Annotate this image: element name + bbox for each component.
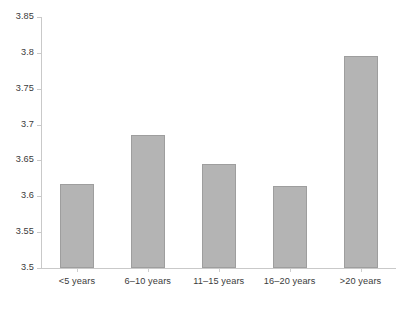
- x-tick-label: >20 years: [340, 277, 382, 286]
- x-tick-label: 6–10 years: [125, 277, 171, 286]
- y-tick-label: 3.75: [0, 84, 34, 93]
- bar-chart: 3.53.553.63.653.73.753.83.85 <5 years6–1…: [0, 0, 408, 319]
- x-tick-mark: [290, 269, 291, 272]
- x-tick-mark: [219, 269, 220, 272]
- y-tick-label: 3.6: [0, 192, 34, 201]
- y-tick-mark: [37, 17, 41, 18]
- x-tick-mark: [361, 269, 362, 272]
- bar: [202, 164, 236, 268]
- y-tick-mark: [37, 89, 41, 90]
- y-tick-label: 3.5: [0, 263, 34, 272]
- bar: [60, 184, 94, 268]
- bar: [273, 186, 307, 268]
- y-tick-mark: [37, 53, 41, 54]
- x-tick-label: <5 years: [59, 277, 95, 286]
- bar: [131, 135, 165, 268]
- x-tick-label: 16–20 years: [264, 277, 316, 286]
- x-tick-label: 11–15 years: [193, 277, 244, 286]
- y-tick-mark: [37, 232, 41, 233]
- y-tick-label: 3.7: [0, 120, 34, 129]
- y-tick-label: 3.55: [0, 228, 34, 237]
- x-tick-mark: [77, 269, 78, 272]
- y-tick-label: 3.65: [0, 156, 34, 165]
- y-tick-mark: [37, 196, 41, 197]
- plot-area: [42, 17, 397, 268]
- y-tick-mark: [37, 160, 41, 161]
- y-tick-label: 3.85: [0, 12, 34, 21]
- bar: [344, 56, 378, 268]
- x-tick-mark: [148, 269, 149, 272]
- y-tick-label: 3.8: [0, 48, 34, 57]
- y-tick-mark: [37, 268, 41, 269]
- y-tick-mark: [37, 125, 41, 126]
